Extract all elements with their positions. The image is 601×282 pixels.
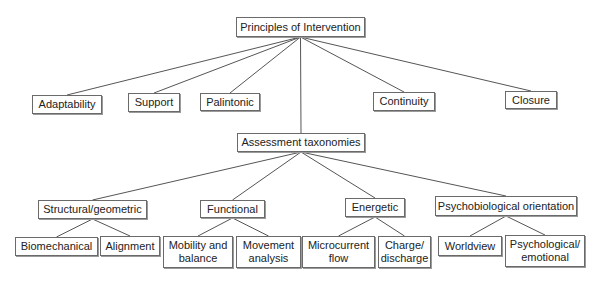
connector-structural-to-alignment — [93, 219, 131, 236]
node-principles-of-intervention: Principles of Intervention — [236, 17, 365, 37]
node-continuity: Continuity — [373, 92, 435, 111]
connector-psychobiological-to-psychological — [506, 216, 545, 235]
node-energetic: Energetic — [345, 198, 405, 217]
node-biomechanical: Biomechanical — [15, 237, 98, 256]
node-alignment: Alignment — [100, 236, 160, 256]
connector-functional-to-movement — [233, 218, 269, 236]
node-mobility-and-balance: Mobility and balance — [163, 236, 233, 268]
node-movement-analysis: Movement analysis — [236, 236, 301, 268]
connector-functional-to-mobility — [198, 218, 233, 236]
connector-structural-to-biomechanical — [57, 219, 93, 237]
connector-principles-to-support — [154, 37, 301, 93]
connector-principles-to-closure — [301, 37, 532, 91]
node-charge-discharge: Charge/ discharge — [378, 236, 431, 268]
diagram-canvas: Principles of Intervention Adaptability … — [0, 0, 601, 282]
node-microcurrent-flow: Microcurrent flow — [302, 236, 375, 268]
node-support: Support — [128, 93, 180, 112]
connector-assessment-to-functional — [233, 152, 302, 200]
node-psychological-emotional: Psychological/ emotional — [505, 235, 585, 267]
node-psychobiological-orientation: Psychobiological orientation — [435, 196, 577, 216]
node-structural-geometric: Structural/geometric — [38, 200, 147, 219]
connector-psychobiological-to-worldview — [470, 216, 506, 236]
node-closure: Closure — [505, 91, 557, 109]
node-palintonic: Palintonic — [200, 93, 260, 111]
node-assessment-taxonomies: Assessment taxonomies — [237, 133, 365, 152]
node-adaptability: Adaptability — [32, 95, 102, 114]
connector-energetic-to-microcurrent — [339, 217, 376, 236]
node-functional: Functional — [200, 200, 265, 218]
connector-assessment-to-psychobiological — [301, 152, 506, 196]
connector-assessment-to-structural — [93, 152, 302, 200]
node-worldview: Worldview — [438, 236, 502, 256]
connector-energetic-to-charge — [375, 217, 405, 236]
connector-assessment-to-energetic — [301, 152, 375, 198]
connector-principles-to-adaptability — [67, 37, 301, 95]
connector-principles-to-continuity — [301, 37, 405, 92]
connector-principles-to-assessment — [301, 37, 302, 133]
